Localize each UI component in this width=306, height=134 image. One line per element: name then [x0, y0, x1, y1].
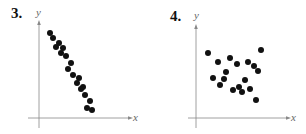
data-point — [56, 40, 62, 46]
data-point — [210, 75, 216, 81]
data-point — [230, 87, 236, 93]
data-point — [242, 77, 248, 83]
data-point — [234, 61, 240, 67]
data-point — [74, 80, 80, 86]
data-point — [82, 92, 88, 98]
x-axis-arrow-icon — [286, 116, 291, 120]
data-point — [247, 86, 253, 92]
data-point — [221, 76, 227, 82]
data-point — [87, 98, 93, 104]
data-point — [253, 97, 259, 103]
x-axis-arrow-icon — [128, 116, 133, 120]
y-axis-arrow-icon — [37, 20, 41, 25]
data-point — [70, 72, 76, 78]
data-point — [215, 59, 221, 65]
data-point — [78, 86, 84, 92]
data-point — [217, 82, 223, 88]
data-point — [245, 59, 251, 65]
data-point — [236, 84, 242, 90]
data-point — [47, 30, 53, 36]
y-axis-arrow-icon — [194, 24, 198, 29]
data-point — [239, 89, 245, 95]
data-point — [205, 50, 211, 56]
data-point — [255, 68, 261, 74]
data-point — [58, 50, 64, 56]
data-point — [223, 69, 229, 75]
data-point — [68, 60, 74, 66]
data-point — [89, 107, 95, 113]
data-point — [50, 35, 56, 41]
scatter-panel-4 — [188, 24, 291, 128]
data-point — [65, 66, 71, 72]
data-point — [227, 55, 233, 61]
scatter-plots — [0, 0, 306, 134]
scatter-panel-3 — [28, 20, 133, 128]
data-point — [63, 53, 69, 59]
data-point — [251, 63, 257, 69]
data-point — [258, 47, 264, 53]
